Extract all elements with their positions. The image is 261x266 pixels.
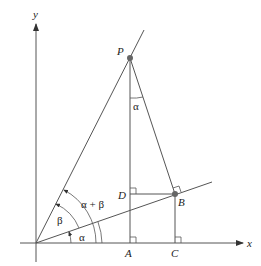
label-beta: β — [57, 214, 63, 226]
right-angle-a — [130, 237, 136, 243]
label-d: D — [117, 189, 126, 201]
label-a: A — [124, 247, 132, 259]
right-angle-d — [130, 188, 136, 194]
label-p: P — [116, 45, 124, 57]
label-b: B — [178, 196, 185, 208]
arc-alpha — [98, 222, 102, 243]
point-p — [127, 55, 133, 61]
trig-sum-diagram: y x P B D A C α β α + β α — [0, 0, 261, 266]
label-c: C — [171, 247, 179, 259]
label-alpha-plus-beta: α + β — [81, 198, 104, 210]
arc-alpha-small — [69, 232, 71, 243]
x-axis-label: x — [246, 237, 252, 249]
segment-pb — [130, 58, 175, 194]
y-axis-label: y — [32, 8, 38, 20]
right-angle-c — [175, 237, 181, 243]
arc-alpha-top — [130, 97, 143, 98]
label-alpha-top: α — [133, 100, 139, 112]
label-alpha-bottom: α — [79, 231, 85, 243]
